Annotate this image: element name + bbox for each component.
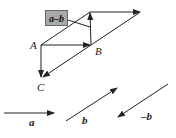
callout-line xyxy=(68,20,90,27)
vector-BC xyxy=(43,45,91,77)
legend-vector-b xyxy=(66,88,117,121)
label-a: a xyxy=(29,117,35,128)
vector-B-top xyxy=(90,13,91,45)
label-A: A xyxy=(30,40,37,51)
label-b: b xyxy=(82,115,88,126)
label-C: C xyxy=(37,82,44,93)
label-box-a-minus-b: a–b xyxy=(45,10,68,26)
label-B: B xyxy=(95,46,102,57)
label-neg-b: –b xyxy=(141,111,152,122)
vector-B-tip xyxy=(91,13,139,45)
